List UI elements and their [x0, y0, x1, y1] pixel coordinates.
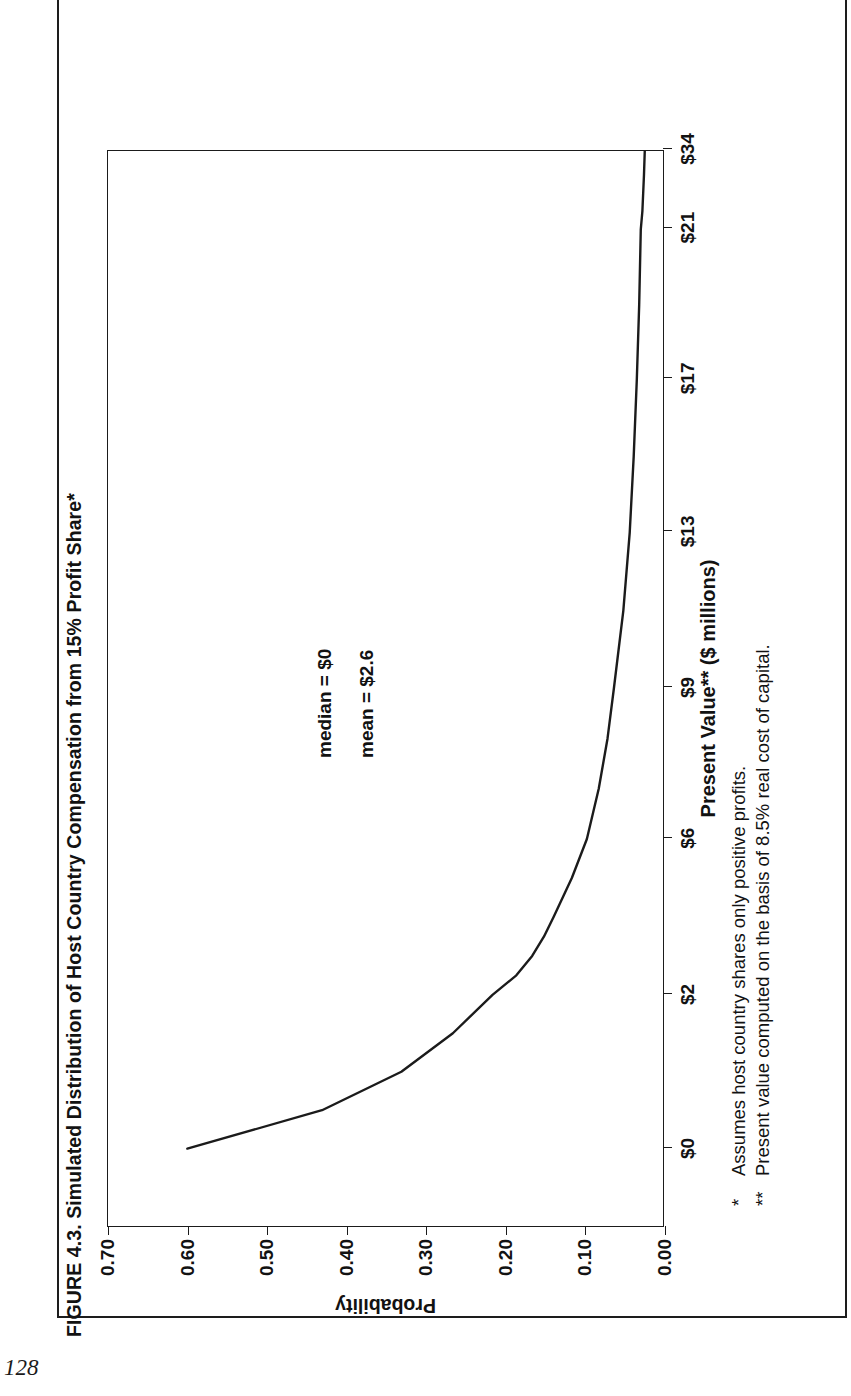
y-axis-tick — [585, 1226, 586, 1235]
y-axis-title-text: Probability — [335, 1295, 436, 1318]
x-axis-tick — [663, 993, 672, 994]
y-axis-tick-label: 0.10 — [574, 1239, 596, 1276]
y-axis-tick — [267, 1226, 268, 1235]
annotation-mean: mean = $2.6 — [356, 650, 378, 758]
y-axis-tick — [346, 1226, 347, 1235]
x-axis-tick-label: $2 — [677, 984, 699, 1005]
page-number: 128 — [4, 1355, 39, 1381]
footnote-item: ** Present value computed on the basis o… — [750, 146, 774, 1206]
x-axis-tick — [663, 227, 672, 228]
y-axis-tick-label: 0.60 — [176, 1239, 198, 1276]
y-axis-tick-label: 0.30 — [415, 1239, 437, 1276]
y-axis-title: Probability — [107, 1293, 664, 1319]
x-axis-tick-label: $0 — [677, 1138, 699, 1159]
x-axis-tick-label: $9 — [677, 677, 699, 698]
x-axis-tick — [663, 837, 672, 838]
distribution-curve-svg — [108, 151, 663, 1226]
y-axis-tick-label: 0.40 — [335, 1239, 357, 1276]
y-axis-tick — [665, 1226, 666, 1235]
y-axis-tick — [187, 1226, 188, 1235]
distribution-curve — [187, 151, 644, 1149]
x-axis-tick-label: $17 — [677, 363, 699, 395]
footnote-marker: ** — [750, 1176, 774, 1206]
footnote-list: * Assumes host country shares only posit… — [727, 146, 774, 1206]
y-axis-tick-label: 0.20 — [494, 1239, 516, 1276]
x-axis-tick-label: $21 — [677, 212, 699, 244]
y-axis-tick-label: 0.00 — [654, 1239, 676, 1276]
y-axis-tick — [108, 1226, 109, 1235]
footnote-marker: * — [727, 1176, 751, 1206]
figure-title: FIGURE 4.3. Simulated Distribution of Ho… — [63, 493, 86, 1337]
y-axis-tick — [426, 1226, 427, 1235]
x-axis-title: Present Value** ($ millions) — [697, 150, 720, 1227]
annotation-median: median = $0 — [314, 649, 336, 758]
x-axis-tick-label: $34 — [677, 133, 699, 165]
x-axis-tick — [663, 1147, 672, 1148]
y-axis-tick-label: 0.50 — [256, 1239, 278, 1276]
rotated-figure-stage: FIGURE 4.3. Simulated Distribution of Ho… — [61, 53, 791, 1343]
x-axis-tick-label: $6 — [677, 828, 699, 849]
scanned-page: FIGURE 4.3. Simulated Distribution of Ho… — [0, 0, 851, 1396]
plot-area: 0.000.100.200.300.400.500.600.70 $0$2$6$… — [107, 150, 664, 1227]
x-axis-tick-label: $13 — [677, 515, 699, 547]
y-axis-tick — [505, 1226, 506, 1235]
footnote-text: Present value computed on the basis of 8… — [750, 644, 774, 1176]
y-axis-tick-label: 0.70 — [97, 1239, 119, 1276]
chart-container: FIGURE 4.3. Simulated Distribution of Ho… — [61, 53, 791, 1343]
footnote-item: * Assumes host country shares only posit… — [727, 146, 751, 1206]
x-axis-tick — [663, 530, 672, 531]
x-axis-tick — [663, 377, 672, 378]
footnote-text: Assumes host country shares only positiv… — [727, 766, 751, 1176]
x-axis-tick — [663, 148, 672, 149]
x-axis-tick — [663, 687, 672, 688]
